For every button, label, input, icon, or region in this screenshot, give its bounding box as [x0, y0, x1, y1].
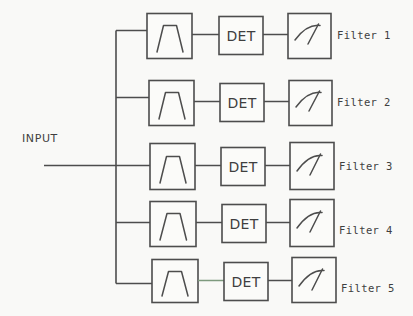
channel-row-4: DET: [150, 200, 334, 247]
diagram-canvas: DET DET DET: [0, 0, 413, 316]
channel-label-4: Filter 4: [339, 224, 393, 236]
filter-box-1[interactable]: [147, 14, 192, 59]
filter-box-2[interactable]: [149, 81, 194, 126]
filter-box-5[interactable]: [152, 260, 198, 303]
channel-label-1: Filter 1: [337, 29, 391, 41]
detector-label-2: DET: [227, 95, 256, 111]
filter-box-4[interactable]: [150, 202, 196, 247]
detector-label-4: DET: [229, 216, 258, 232]
filter-box-3[interactable]: [150, 144, 195, 190]
meter-box-4[interactable]: [290, 200, 334, 247]
channel-label-2: Filter 2: [337, 96, 391, 108]
input-label: INPUT: [22, 132, 58, 145]
meter-box-5[interactable]: [292, 258, 336, 303]
channel-row-1: DET: [147, 14, 331, 59]
channel-label-3: Filter 3: [339, 160, 393, 172]
channel-row-5: DET: [152, 258, 336, 303]
meter-box-3[interactable]: [290, 143, 334, 190]
channel-row-3: DET: [150, 143, 334, 190]
meter-box-2[interactable]: [289, 81, 332, 126]
channel-row-2: DET: [149, 81, 332, 126]
detector-label-3: DET: [228, 159, 257, 175]
block-diagram: DET DET DET: [0, 0, 413, 316]
channel-label-5: Filter 5: [341, 282, 395, 294]
detector-label-5: DET: [231, 274, 260, 290]
meter-box-1[interactable]: [288, 14, 331, 59]
detector-label-1: DET: [226, 28, 255, 44]
